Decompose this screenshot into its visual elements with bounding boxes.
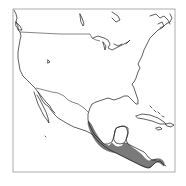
range-map: [0, 0, 186, 186]
map-background: [0, 0, 186, 186]
